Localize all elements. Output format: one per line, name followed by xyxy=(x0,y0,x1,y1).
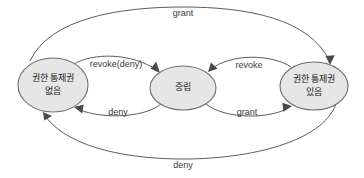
state-label-no-control-line1: 권한 통제권 xyxy=(32,72,75,83)
transition-deny-inner-lower: deny xyxy=(74,104,161,117)
edge-label-deny-inner-lower: deny xyxy=(108,107,128,117)
edge-label-grant-inner-lower: grant xyxy=(237,107,258,117)
edge-label-revoke-deny-inner-upper: revoke(deny) xyxy=(90,59,143,69)
state-diagram: grant revoke(deny) deny revoke grant xyxy=(0,0,364,178)
state-ellipse-no-control[interactable] xyxy=(18,58,88,112)
transition-revoke-deny-inner-upper: revoke(deny) xyxy=(74,56,160,73)
state-ellipse-has-control[interactable] xyxy=(280,62,348,110)
transition-revoke-inner-upper: revoke xyxy=(208,57,291,72)
arrowhead-revoke-inner-upper xyxy=(208,62,218,72)
transition-deny-outer-bottom: deny xyxy=(43,104,336,170)
state-label-no-control-line2: 없음 xyxy=(45,86,61,96)
state-diagram-canvas: grant revoke(deny) deny revoke grant xyxy=(0,0,364,178)
arrowhead-revoke-deny-inner-upper xyxy=(151,62,160,74)
state-node-has-control[interactable]: 권한 통제권 있음 xyxy=(280,62,348,110)
state-label-neutral-line1: 중립 xyxy=(175,82,191,92)
state-label-has-control-line1: 권한 통제권 xyxy=(293,73,336,84)
edge-label-revoke-inner-upper: revoke xyxy=(235,60,262,70)
arrowhead-grant-inner-lower xyxy=(282,103,292,112)
state-node-no-control[interactable]: 권한 통제권 없음 xyxy=(18,58,88,112)
transition-grant-outer-top: grant xyxy=(30,7,335,65)
edge-label-deny-outer-bottom: deny xyxy=(173,160,193,170)
transition-grant-inner-lower: grant xyxy=(206,103,292,118)
state-node-neutral[interactable]: 중립 xyxy=(150,66,216,110)
state-label-has-control-line2: 있음 xyxy=(306,86,322,97)
edge-label-grant-outer-top: grant xyxy=(173,8,194,18)
